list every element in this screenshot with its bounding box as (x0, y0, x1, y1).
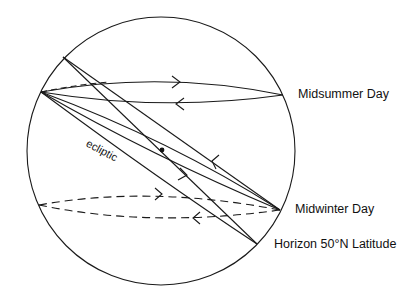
midwinter-path-upper (39, 196, 280, 210)
midsummer-path-back (41, 92, 283, 103)
celestial-sphere-diagram (0, 0, 416, 302)
ecliptic-line (41, 92, 257, 244)
midsummer-label: Midsummer Day (298, 87, 389, 101)
horizon-line-upper (63, 57, 280, 210)
arrow-left-icon (176, 98, 184, 110)
midwinter-label: Midwinter Day (295, 202, 374, 216)
horizon-label: Horizon 50°N Latitude (274, 237, 396, 251)
midsummer-path-front (41, 82, 283, 95)
arrow-left-icon (193, 212, 200, 224)
arrow-right-icon (155, 188, 162, 200)
midwinter-path-lower (39, 205, 280, 218)
observer-dot (160, 148, 165, 153)
